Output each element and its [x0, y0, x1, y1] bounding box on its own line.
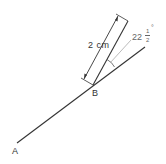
angle-arc: [107, 60, 115, 68]
dimension-tick-bottom: [81, 78, 93, 85]
point-b-label: B: [92, 89, 98, 98]
angle-label-degree: °: [151, 24, 154, 31]
angle-label-numerator: 1: [146, 28, 149, 34]
point-a-label: A: [12, 147, 18, 156]
line-ab-extended: [17, 47, 145, 143]
dimension-label: 2 cm: [88, 41, 110, 50]
construction-diagram: [0, 0, 166, 164]
angle-fraction-bar: [145, 35, 150, 36]
angle-label-whole: 22: [132, 33, 142, 42]
angle-label-denominator: 2: [146, 37, 149, 43]
